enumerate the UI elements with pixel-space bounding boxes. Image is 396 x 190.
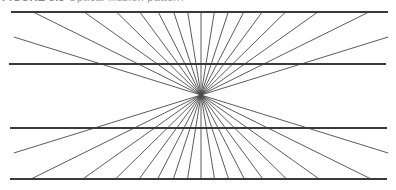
ray <box>116 95 202 179</box>
ray <box>201 95 263 179</box>
ray <box>14 95 201 153</box>
ray <box>201 12 318 95</box>
ray <box>201 95 388 153</box>
ray <box>140 12 201 95</box>
ray <box>201 12 262 95</box>
ray <box>201 12 369 95</box>
ray <box>117 12 202 95</box>
radiating-rays <box>14 12 388 179</box>
ray <box>33 12 201 95</box>
ray <box>201 95 229 179</box>
ray <box>14 37 201 95</box>
ray <box>201 12 228 95</box>
ray <box>201 95 287 179</box>
ray <box>31 95 201 179</box>
ray <box>201 95 371 179</box>
ray <box>201 12 286 95</box>
ray <box>83 95 201 179</box>
ray <box>84 12 201 95</box>
hering-illusion-diagram <box>0 0 396 190</box>
ray <box>201 37 388 95</box>
ray <box>201 95 319 179</box>
ray <box>173 95 201 179</box>
ray <box>139 95 201 179</box>
ray <box>174 12 201 95</box>
